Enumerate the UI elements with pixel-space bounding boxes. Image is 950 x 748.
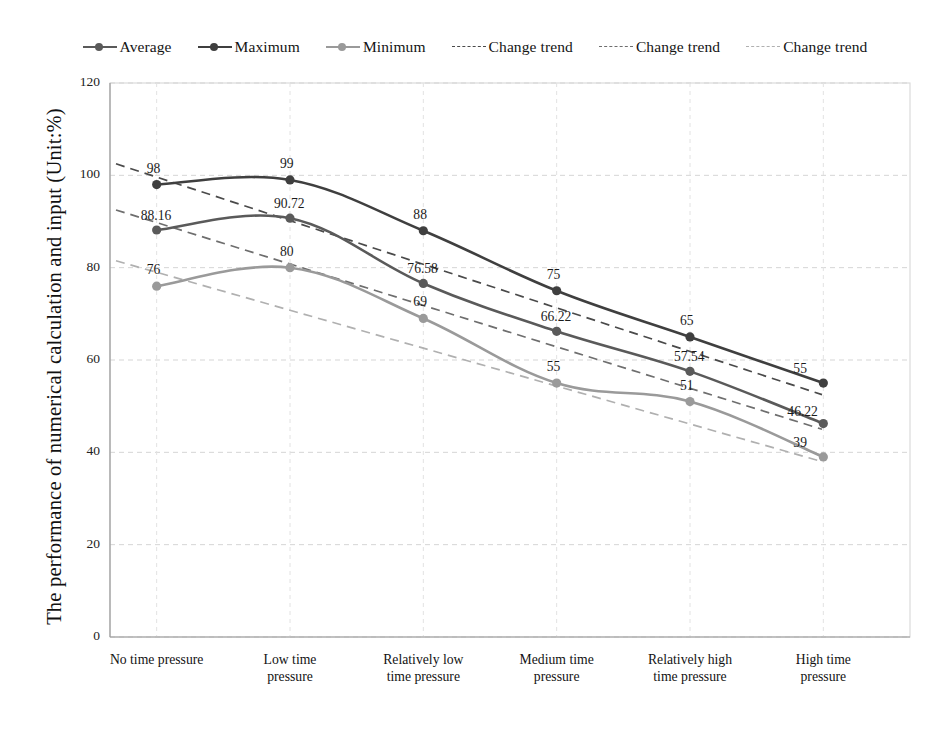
data-point-marker[interactable] xyxy=(419,279,428,288)
data-point-label: 88.16 xyxy=(141,208,172,224)
data-point-label: 55 xyxy=(793,361,807,377)
data-point-marker[interactable] xyxy=(552,286,561,295)
data-point-marker[interactable] xyxy=(819,452,828,461)
data-point-label: 75 xyxy=(547,267,561,283)
x-axis-tick-label: No time pressure xyxy=(109,651,205,668)
y-axis-tick-label: 80 xyxy=(56,259,100,275)
data-point-label: 51 xyxy=(680,378,694,394)
data-point-label: 80 xyxy=(280,244,294,260)
x-axis-tick-label: Relatively low time pressure xyxy=(375,651,471,685)
x-axis-tick-label: Medium time pressure xyxy=(509,651,605,685)
data-point-marker[interactable] xyxy=(685,367,694,376)
data-point-marker[interactable] xyxy=(552,327,561,336)
data-point-label: 88 xyxy=(413,207,427,223)
data-point-label: 66.22 xyxy=(541,309,572,325)
y-axis-tick-label: 120 xyxy=(56,74,100,90)
data-point-marker[interactable] xyxy=(285,175,294,184)
data-point-marker[interactable] xyxy=(419,226,428,235)
y-axis-tick-label: 40 xyxy=(56,443,100,459)
data-point-marker[interactable] xyxy=(819,378,828,387)
data-point-marker[interactable] xyxy=(152,225,161,234)
data-point-label: 90.72 xyxy=(274,196,305,212)
y-axis-tick-label: 0 xyxy=(56,628,100,644)
data-point-label: 65 xyxy=(680,313,694,329)
data-point-label: 98 xyxy=(147,161,161,177)
line-chart: AverageMaximumMinimumChange trendChange … xyxy=(0,0,950,748)
data-point-label: 46.22 xyxy=(787,404,818,420)
y-axis-tick-label: 60 xyxy=(56,351,100,367)
data-point-marker[interactable] xyxy=(152,282,161,291)
data-point-label: 57.54 xyxy=(674,349,705,365)
data-point-marker[interactable] xyxy=(685,397,694,406)
data-point-label: 76 xyxy=(147,262,161,278)
data-point-label: 99 xyxy=(280,156,294,172)
plot-area xyxy=(0,0,950,748)
data-point-marker[interactable] xyxy=(419,314,428,323)
data-point-marker[interactable] xyxy=(285,263,294,272)
data-point-marker[interactable] xyxy=(819,419,828,428)
x-axis-tick-label: High time pressure xyxy=(775,651,871,685)
data-point-marker[interactable] xyxy=(552,378,561,387)
x-axis-tick-label: Low time pressure xyxy=(242,651,338,685)
data-point-marker[interactable] xyxy=(285,214,294,223)
data-point-label: 69 xyxy=(413,294,427,310)
data-point-marker[interactable] xyxy=(685,332,694,341)
y-axis-tick-label: 100 xyxy=(56,166,100,182)
data-point-label: 76.58 xyxy=(407,261,438,277)
x-axis-tick-label: Relatively high time pressure xyxy=(642,651,738,685)
data-point-marker[interactable] xyxy=(152,180,161,189)
data-point-label: 39 xyxy=(793,435,807,451)
y-axis-tick-label: 20 xyxy=(56,536,100,552)
data-point-label: 55 xyxy=(547,359,561,375)
